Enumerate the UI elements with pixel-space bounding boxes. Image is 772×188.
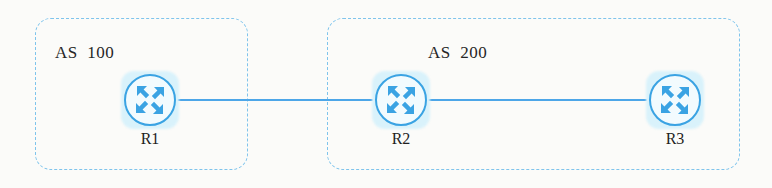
- link-r1-r2: [177, 99, 373, 101]
- router-node-r3[interactable]: R3: [646, 71, 704, 129]
- router-icon: [124, 74, 176, 126]
- link-r2-r3: [428, 99, 647, 101]
- as-label-as200: AS 200: [428, 44, 487, 61]
- router-label-r2: R2: [360, 131, 442, 147]
- router-node-r2[interactable]: R2: [372, 71, 430, 129]
- router-label-r1: R1: [109, 131, 191, 147]
- network-diagram: AS 100 AS 200 R1: [0, 0, 772, 188]
- router-icon: [649, 74, 701, 126]
- as-label-as100: AS 100: [55, 44, 114, 61]
- router-node-r1[interactable]: R1: [121, 71, 179, 129]
- router-label-r3: R3: [634, 131, 716, 147]
- router-icon: [375, 74, 427, 126]
